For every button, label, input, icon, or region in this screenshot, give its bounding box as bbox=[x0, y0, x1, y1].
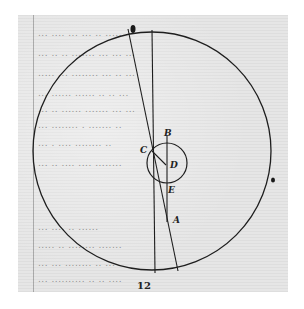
geometric-diagram bbox=[0, 0, 304, 309]
ink-blot-right bbox=[271, 178, 275, 183]
point-label-b: B bbox=[164, 128, 172, 138]
diagram-lines bbox=[128, 29, 178, 273]
point-label-c: C bbox=[140, 145, 147, 155]
ink-blot-top bbox=[131, 25, 136, 33]
point-label-a: A bbox=[173, 215, 180, 225]
point-label-d: D bbox=[170, 160, 178, 170]
point-label-e: E bbox=[168, 185, 175, 195]
folio-number: 12 bbox=[137, 280, 151, 291]
